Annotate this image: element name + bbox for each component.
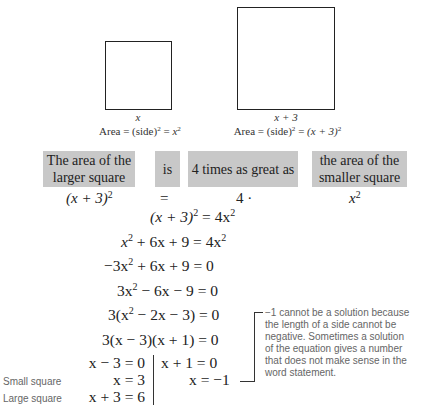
note-connector-vertical (254, 312, 255, 382)
note-connector-bottom (240, 381, 254, 382)
small-square-area: Area = (side)2 = x2 (90, 125, 190, 137)
step-2: x2 + 6x + 9 = 4x2 (121, 233, 226, 251)
phrase-smaller-area: the area of the smaller square (312, 151, 407, 187)
label-large-square: Large square (3, 393, 62, 404)
expr-four: 4 · (236, 190, 252, 207)
solution-right-1: x + 1 = 0 (161, 354, 217, 372)
label-small-square: Small square (3, 376, 61, 387)
large-square-area: Area = (side)2 = (x + 3)2 (225, 125, 350, 137)
solution-divider (153, 355, 154, 405)
step-6: 3(x − 3)(x + 1) = 0 (102, 331, 219, 349)
solution-left-3: x + 3 = 6 (60, 388, 145, 406)
expr-larger-area: (x + 3)2 (66, 190, 113, 207)
solution-left-2: x = 3 (60, 371, 145, 389)
solution-left-1: x − 3 = 0 (60, 354, 145, 372)
phrase-is: is (155, 151, 180, 187)
step-1: (x + 3)2 = 4x2 (150, 208, 235, 226)
expr-smaller-area: x2 (349, 190, 361, 207)
note-connector-top (254, 312, 263, 313)
large-square (237, 7, 335, 110)
solution-right-2: x = −1 (189, 371, 230, 389)
expr-equals: = (160, 190, 168, 207)
small-square (105, 41, 172, 110)
note-negative-solution: −1 cannot be a solution because the leng… (265, 307, 415, 379)
step-4: 3x2 − 6x − 9 = 0 (117, 282, 218, 300)
phrase-four-times: 4 times as great as (188, 151, 298, 187)
step-5: 3(x2 − 2x − 3) = 0 (108, 306, 219, 324)
small-square-side-label: x (128, 111, 148, 123)
phrase-larger-area: The area of the larger square (43, 151, 135, 187)
step-3: −3x2 + 6x + 9 = 0 (104, 257, 214, 275)
large-square-side-label: x + 3 (256, 111, 316, 123)
